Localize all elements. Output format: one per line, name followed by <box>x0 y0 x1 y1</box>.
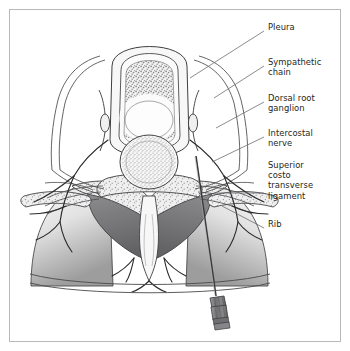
label-dorsal-root-ganglion: Dorsal root ganglion <box>268 93 315 113</box>
needle-hub <box>210 296 230 330</box>
label-rib: Rib <box>268 219 282 229</box>
label-superior-costotransverse-ligament: Superior costo transverse ligament <box>268 160 313 201</box>
leader-intercostal <box>212 137 264 162</box>
leader-dorsal-root <box>216 102 264 128</box>
anatomy-figure: Pleura Sympathetic chain Dorsal root gan… <box>0 0 350 351</box>
label-pleura: Pleura <box>268 22 295 32</box>
leader-pleura <box>190 31 264 78</box>
label-sympathetic-chain: Sympathetic chain <box>268 57 321 77</box>
spinous-process <box>140 196 159 281</box>
label-intercostal-nerve: Intercostal nerve <box>268 128 313 148</box>
